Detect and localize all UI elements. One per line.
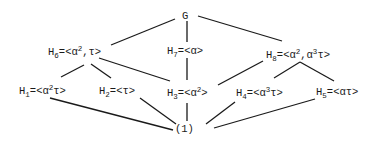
edge-H6-H1 bbox=[61, 65, 84, 77]
node-H1: H1=<α2τ> bbox=[19, 85, 66, 100]
node-H2: H2=<τ> bbox=[99, 86, 135, 100]
edge-H4-one bbox=[206, 102, 235, 124]
edge-G-H6 bbox=[111, 19, 175, 45]
node-H8: H8=<α2,α3τ> bbox=[266, 49, 330, 64]
edge-H8-H3 bbox=[218, 61, 263, 85]
node-H5: H5=<ατ> bbox=[316, 87, 358, 101]
edge-G-H8 bbox=[198, 16, 282, 41]
node-H4: H4=<α3τ> bbox=[236, 87, 283, 102]
node-G-label: G bbox=[182, 10, 188, 22]
node-H3: H3=<α2> bbox=[167, 87, 208, 102]
edge-H1-one bbox=[50, 98, 173, 130]
node-H6: H6=<α2,τ> bbox=[48, 46, 101, 61]
edge-H6-H2 bbox=[91, 64, 111, 78]
node-H7: H7=<α> bbox=[167, 46, 203, 60]
edge-H2-one bbox=[140, 98, 176, 124]
node-trivial-subgroup: (1) bbox=[175, 124, 194, 135]
edge-H8-H5 bbox=[300, 62, 334, 81]
edge-H5-one bbox=[214, 99, 315, 128]
lattice-edges bbox=[0, 0, 378, 142]
node-G: G bbox=[182, 11, 188, 22]
edge-H8-H4 bbox=[274, 62, 300, 78]
